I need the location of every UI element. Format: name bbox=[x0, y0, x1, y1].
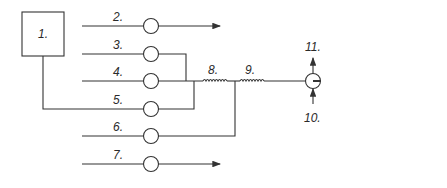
line-4: 4. bbox=[82, 65, 203, 89]
coil-9-label: 9. bbox=[245, 63, 255, 77]
valve-2-icon bbox=[144, 19, 159, 34]
valve-6-icon bbox=[144, 129, 159, 144]
valve-5-icon bbox=[144, 102, 159, 117]
line-4-label: 4. bbox=[113, 65, 123, 79]
block-1: 1. bbox=[22, 12, 64, 56]
line-7-label: 7. bbox=[113, 148, 123, 162]
schematic-diagram: 1. 2. 3. 4. 5. 6. 7. bbox=[0, 0, 447, 188]
line-6: 6. bbox=[82, 81, 235, 144]
coil-8-label: 8. bbox=[208, 63, 218, 77]
block-1-label: 1. bbox=[38, 27, 48, 41]
line-2: 2. bbox=[82, 10, 220, 34]
line-2-label: 2. bbox=[112, 10, 123, 24]
output-11-label: 11. bbox=[305, 40, 321, 54]
line-7: 7. bbox=[82, 148, 220, 172]
line-3: 3. bbox=[82, 38, 186, 81]
coil-8: 8. bbox=[203, 63, 240, 81]
valve-3-icon bbox=[144, 47, 159, 62]
line-6-label: 6. bbox=[113, 120, 123, 134]
line-3-label: 3. bbox=[113, 38, 123, 52]
coil-8-icon bbox=[203, 80, 227, 82]
junction: 11. 10. bbox=[304, 40, 321, 125]
coil-9: 9. bbox=[240, 63, 305, 81]
line-5-label: 5. bbox=[113, 93, 123, 107]
line-block1-to-5 bbox=[43, 56, 143, 109]
input-10-label: 10. bbox=[304, 111, 321, 125]
coil-9-icon bbox=[240, 80, 264, 82]
valve-4-icon bbox=[144, 74, 159, 89]
valve-7-icon bbox=[144, 157, 159, 172]
